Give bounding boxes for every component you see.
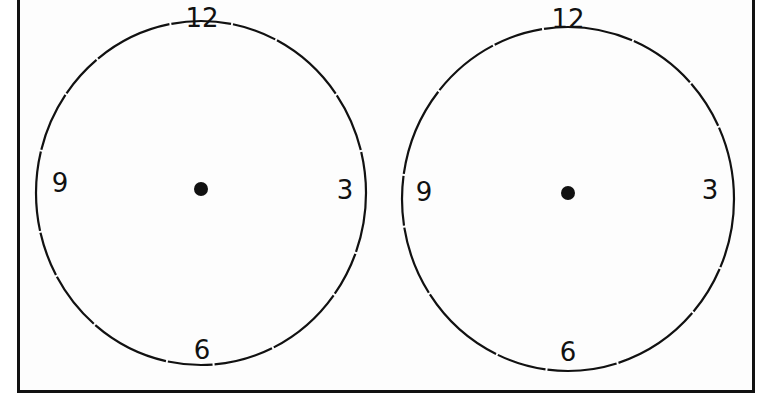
clock-right: 12 3 6 9 <box>402 4 734 371</box>
clock-number-9: 9 <box>416 177 433 207</box>
clock-number-3: 3 <box>337 175 354 205</box>
clock-center-dot <box>561 186 575 200</box>
clock-number-9: 9 <box>52 168 69 198</box>
clock-number-6: 6 <box>560 337 577 367</box>
clock-number-12: 12 <box>185 3 218 33</box>
clock-number-12: 12 <box>551 4 584 34</box>
clock-left: 12 3 6 9 <box>36 3 366 365</box>
clock-number-3: 3 <box>702 175 719 205</box>
clock-center-dot <box>194 182 208 196</box>
clock-faces: 12 3 6 9 12 3 6 9 <box>0 0 757 398</box>
clock-number-6: 6 <box>194 335 211 365</box>
